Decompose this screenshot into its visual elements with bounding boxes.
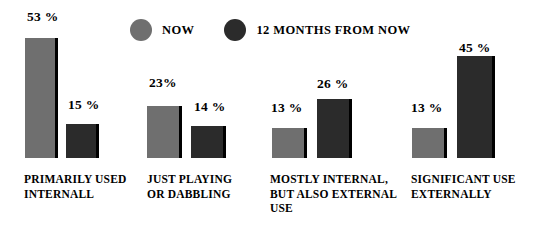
bar-future-group-3 (317, 99, 352, 158)
value-label-now-group-1: 53 % (27, 10, 59, 24)
category-label-3: MOSTLY INTERNAL,BUT ALSO EXTERNALUSE (270, 172, 397, 216)
bar-fill (191, 126, 223, 158)
bar-shadow-edge (304, 128, 307, 158)
category-label-line: USE (270, 201, 397, 216)
bar-fill (25, 38, 55, 158)
bar-shadow-edge (96, 124, 99, 158)
bar-now-group-2 (147, 106, 182, 158)
category-label-line: SIGNIFICANT USE (411, 172, 516, 187)
bar-future-group-1 (66, 124, 99, 158)
bar-shadow-edge (179, 106, 182, 158)
category-label-line: JUST PLAYING (147, 172, 232, 187)
value-label-now-group-4: 13 % (411, 101, 443, 115)
bar-shadow-edge (349, 99, 352, 158)
bar-shadow-edge (492, 56, 495, 158)
value-label-future-group-3: 26 % (317, 77, 349, 91)
category-label-line: PRIMARILY USED (24, 172, 127, 187)
category-label-line: INTERNALL (24, 187, 127, 202)
bar-fill (412, 128, 444, 158)
category-label-line: EXTERNALLY (411, 187, 516, 202)
bar-fill (457, 56, 492, 158)
bar-shadow-edge (444, 128, 447, 158)
bar-now-group-1 (25, 38, 58, 158)
value-label-now-group-3: 13 % (271, 101, 303, 115)
bar-chart: NOW 12 MONTHS FROM NOW 53 %15 %PRIMARILY… (0, 0, 546, 227)
value-label-future-group-4: 45 % (459, 41, 491, 55)
category-label-2: JUST PLAYINGOR DABBLING (147, 172, 232, 201)
category-label-line: OR DABBLING (147, 187, 232, 202)
category-label-line: BUT ALSO EXTERNAL (270, 187, 397, 202)
plot-area: 53 %15 %PRIMARILY USEDINTERNALL23%14 %JU… (0, 0, 546, 227)
value-label-now-group-2: 23% (149, 76, 177, 90)
value-label-future-group-1: 15 % (68, 98, 100, 112)
bar-future-group-2 (191, 126, 226, 158)
bar-now-group-3 (272, 128, 307, 158)
bar-shadow-edge (223, 126, 226, 158)
bar-fill (317, 99, 349, 158)
bar-shadow-edge (55, 38, 58, 158)
bar-future-group-4 (457, 56, 495, 158)
category-label-1: PRIMARILY USEDINTERNALL (24, 172, 127, 201)
value-label-future-group-2: 14 % (194, 100, 226, 114)
bar-fill (147, 106, 179, 158)
bar-fill (272, 128, 304, 158)
bar-now-group-4 (412, 128, 447, 158)
bar-fill (66, 124, 96, 158)
category-label-line: MOSTLY INTERNAL, (270, 172, 397, 187)
category-label-4: SIGNIFICANT USEEXTERNALLY (411, 172, 516, 201)
